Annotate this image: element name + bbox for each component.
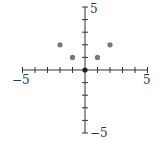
x-max-label: 5 — [143, 73, 151, 87]
data-point — [107, 42, 112, 47]
data-point — [82, 67, 87, 72]
data-point — [57, 42, 62, 47]
x-min-label: −5 — [12, 73, 30, 87]
scatter-plot: −5 5 5 −5 — [0, 0, 159, 143]
y-min-label: −5 — [90, 126, 108, 140]
data-point — [95, 55, 100, 60]
y-max-label: 5 — [90, 2, 98, 16]
data-point — [70, 55, 75, 60]
